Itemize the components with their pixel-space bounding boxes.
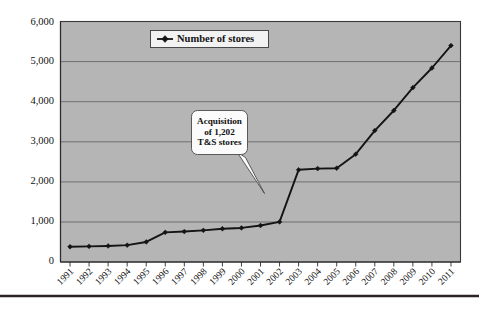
xtick-label-1992: 1992 [74, 266, 95, 287]
acquisition-callout: Acquisition of 1,202 T&S stores [192, 111, 248, 155]
ytick-label-3000: 3,000 [30, 135, 54, 146]
xtick-label-1995: 1995 [131, 266, 152, 287]
xtick-label-2004: 2004 [303, 266, 324, 287]
line-chart: 0 1,000 2,000 3,000 4,000 5,000 6,000 19… [0, 0, 479, 309]
ytick-label-2000: 2,000 [30, 175, 54, 186]
xtick-label-2001: 2001 [245, 266, 266, 287]
xtick-label-1998: 1998 [188, 266, 209, 287]
ytick-label-4000: 4,000 [30, 95, 54, 106]
callout-line-3: T&S stores [198, 137, 242, 147]
ytick-label-5000: 5,000 [30, 55, 54, 66]
ytick-label-1000: 1,000 [30, 215, 54, 226]
xtick-label-1991: 1991 [55, 266, 76, 287]
xtick-label-1996: 1996 [150, 266, 171, 287]
callout-line-2: of 1,202 [204, 127, 235, 137]
xtick-label-1993: 1993 [93, 266, 114, 287]
xtick-label-2002: 2002 [264, 266, 285, 287]
xtick-label-2006: 2006 [341, 266, 362, 287]
xtick-label-2005: 2005 [322, 266, 343, 287]
xtick-label-2010: 2010 [417, 266, 438, 287]
xtick-label-1994: 1994 [112, 266, 133, 287]
xtick-label-2009: 2009 [398, 266, 419, 287]
xtick-label-2003: 2003 [284, 266, 305, 287]
xtick-label-2007: 2007 [360, 266, 381, 287]
ytick-label-6000: 6,000 [30, 16, 54, 27]
chart-figure: 0 1,000 2,000 3,000 4,000 5,000 6,000 19… [0, 0, 479, 309]
xtick-label-1997: 1997 [169, 266, 190, 287]
callout-line-1: Acquisition [197, 116, 242, 126]
xtick-label-2000: 2000 [226, 266, 247, 287]
xtick-label-2011: 2011 [436, 266, 456, 286]
y-axis: 0 1,000 2,000 3,000 4,000 5,000 6,000 [30, 16, 54, 267]
xtick-label-1999: 1999 [207, 266, 228, 287]
x-axis: 1991199219931994199519961997199819992000… [55, 262, 457, 287]
legend[interactable]: Number of stores [151, 31, 269, 48]
ytick-label-0: 0 [49, 255, 54, 266]
xtick-label-2008: 2008 [379, 266, 400, 287]
legend-label-number-of-stores: Number of stores [177, 33, 254, 44]
